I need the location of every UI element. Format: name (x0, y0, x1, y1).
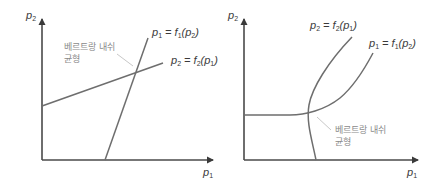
left-reaction-curve-p2 (42, 63, 163, 106)
left-x-axis-label: p1 (203, 167, 213, 179)
bertrand-nash-diagram: p2 p1 p1 = f1(p2) p2 = f2(p1) 베르트랑 내쉬 균형… (0, 0, 440, 189)
right-curve-label-p2: p2 = f2(p1) (310, 20, 357, 32)
right-x-axis-label: p1 (407, 167, 417, 179)
left-curve-label-p1: p1 = f1(p2) (152, 27, 199, 39)
left-annotation-leader (117, 54, 133, 66)
left-curve-label-p2: p2 = f2(p1) (171, 55, 218, 67)
right-curve-label-p1: p1 = f1(p2) (369, 38, 416, 50)
right-equilibrium-annotation: 베르트랑 내쉬 균형 (335, 124, 386, 148)
diagram-graphics (0, 0, 440, 189)
left-equilibrium-annotation: 베르트랑 내쉬 균형 (64, 41, 115, 65)
left-y-axis-label: p2 (26, 10, 36, 22)
right-annotation-leader (317, 117, 331, 130)
right-y-axis-label: p2 (228, 10, 238, 22)
